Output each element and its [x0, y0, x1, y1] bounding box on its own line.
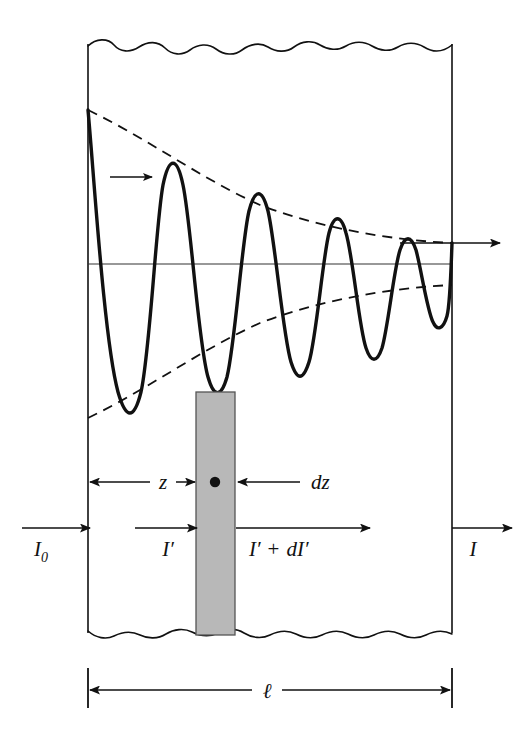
bottom-wavy-edge [88, 630, 452, 639]
lower-envelope-curve [88, 285, 452, 418]
beam-arrows: I0 I′ I′+dI′ I [22, 528, 512, 565]
slab-element-rect [196, 392, 235, 635]
element-exit-intensity-label: I′+dI′ [248, 537, 309, 561]
depth-dimension-z: z [90, 470, 195, 494]
figure-root: z dz I0 I′ I′+dI′ I ℓ [0, 0, 532, 744]
slab-element [196, 392, 235, 635]
transmitted-intensity-label: I [469, 537, 478, 561]
top-wavy-edge [88, 40, 452, 54]
element-thickness-dz: dz [238, 470, 330, 494]
interior-intensity-label: I′ [161, 537, 174, 561]
absorption-diagram: z dz I0 I′ I′+dI′ I ℓ [0, 0, 532, 744]
dz-label: dz [311, 470, 330, 494]
incident-intensity-label: I0 [33, 537, 48, 565]
slab-center-dot [210, 477, 220, 487]
z-label: z [158, 470, 167, 494]
thickness-label: ℓ [263, 679, 272, 703]
slab-thickness-dimension: ℓ [88, 668, 452, 708]
damped-wave-curve [88, 110, 452, 413]
